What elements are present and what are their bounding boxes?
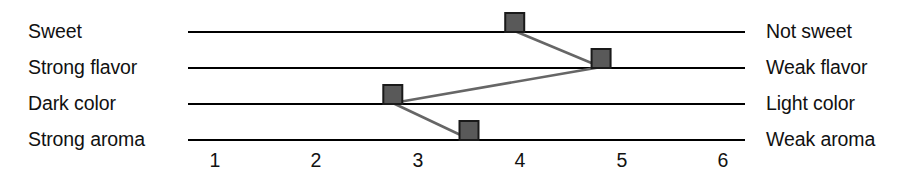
xtick-label-3: 3 [413, 151, 424, 171]
plot-area [0, 0, 920, 175]
xtick-label-6: 6 [718, 151, 729, 171]
data-marker[interactable] [460, 121, 479, 140]
xtick-label-5: 5 [617, 151, 628, 171]
data-marker[interactable] [383, 85, 402, 104]
data-marker[interactable] [505, 13, 524, 32]
data-marker[interactable] [592, 49, 611, 68]
xtick-label-4: 4 [515, 151, 526, 171]
profile-connector-line [393, 31, 601, 139]
sensory-profile-chart: Sweet Strong flavor Dark color Strong ar… [0, 0, 920, 175]
xtick-label-1: 1 [210, 151, 221, 171]
xtick-label-2: 2 [311, 151, 322, 171]
